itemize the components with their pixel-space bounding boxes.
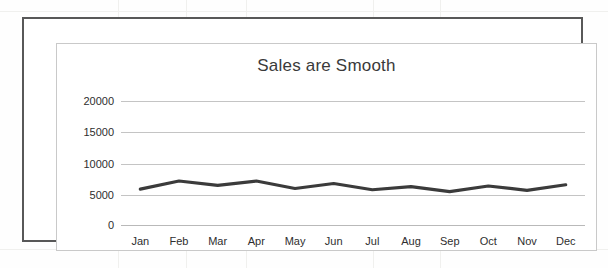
series-line-sales[interactable] [121,101,585,226]
plot-area: 20000 15000 10000 5000 0 [121,101,585,226]
figure-border: Sales are Smooth 20000 15000 10000 5000 … [22,17,583,242]
scan-artifact [0,11,608,12]
x-tick-label-dec: Dec [546,235,585,247]
x-tick-label-jun: Jun [314,235,353,247]
x-tick-label-aug: Aug [392,235,431,247]
x-tick-label-may: May [276,235,315,247]
x-tick-label-jul: Jul [353,235,392,247]
scanned-page: Sales are Smooth 20000 15000 10000 5000 … [0,0,608,268]
x-axis-labels: Jan Feb Mar Apr May Jun Jul Aug Sep Oct … [121,235,585,247]
x-tick-label-mar: Mar [198,235,237,247]
y-tick-label: 0 [108,219,114,231]
x-tick-label-feb: Feb [160,235,199,247]
chart-area[interactable]: Sales are Smooth 20000 15000 10000 5000 … [56,43,597,251]
y-tick-label: 5000 [90,189,114,201]
x-tick-label-apr: Apr [237,235,276,247]
x-tick-label-oct: Oct [469,235,508,247]
x-tick-label-sep: Sep [430,235,469,247]
y-tick-label: 20000 [83,95,114,107]
x-tick-label-jan: Jan [121,235,160,247]
x-tick-label-nov: Nov [508,235,547,247]
chart-title: Sales are Smooth [57,56,596,76]
y-tick-label: 10000 [83,158,114,170]
y-tick-label: 15000 [83,126,114,138]
